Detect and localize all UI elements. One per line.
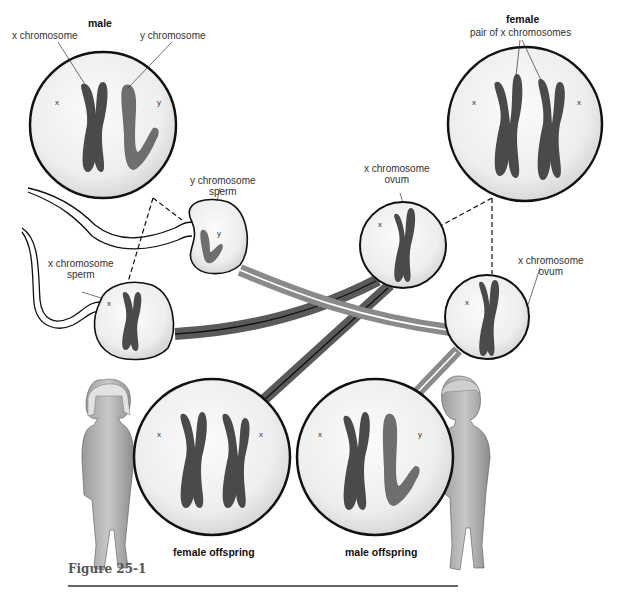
female-offspring-x-left: x bbox=[157, 430, 161, 439]
x-sperm-label-line2: sperm bbox=[48, 269, 114, 280]
x-sperm-label-line1: x chromosome bbox=[48, 258, 114, 269]
male-offspring-x: x bbox=[318, 430, 322, 439]
female-pair-callout: pair of x chromosomes bbox=[470, 27, 571, 38]
male-parent-label: male bbox=[88, 18, 112, 29]
ovum-1-label-line1: x chromosome bbox=[364, 163, 430, 174]
female-x-marker-right: x bbox=[577, 98, 581, 107]
male-y-marker: y bbox=[157, 98, 161, 107]
female-x-marker-left: x bbox=[472, 98, 476, 107]
sex-determination-diagram bbox=[0, 0, 619, 605]
female-offspring-label: female offspring bbox=[173, 547, 255, 558]
female-offspring-x-right: x bbox=[259, 430, 263, 439]
ovum-2-label: x chromosome ovum bbox=[518, 255, 584, 277]
figure-caption: Figure 25-1 bbox=[68, 562, 146, 576]
male-offspring-cell bbox=[297, 379, 453, 535]
ovum-cell-1 bbox=[360, 193, 446, 288]
y-sperm-marker: y bbox=[217, 229, 221, 238]
y-sperm-label-line1: y chromosome bbox=[190, 175, 256, 186]
x-sperm-label: x chromosome sperm bbox=[48, 258, 114, 280]
ovum-1-label-line2: ovum bbox=[364, 174, 430, 185]
male-offspring-label: male offspring bbox=[345, 547, 417, 558]
y-sperm-label: y chromosome sperm bbox=[190, 175, 256, 197]
x-sperm-marker: x bbox=[107, 299, 111, 308]
caption-rule bbox=[68, 585, 458, 587]
ovum-2-label-line2: ovum bbox=[518, 266, 584, 277]
y-sperm-label-line2: sperm bbox=[190, 186, 256, 197]
male-x-marker: x bbox=[55, 98, 59, 107]
female-child-figure bbox=[82, 379, 134, 570]
male-y-chromosome-callout: y chromosome bbox=[140, 30, 206, 41]
ovum-cell-2 bbox=[445, 268, 540, 359]
ovum-2-marker: x bbox=[465, 298, 469, 307]
x-sperm-cell bbox=[82, 282, 173, 359]
female-offspring-cell bbox=[134, 379, 290, 535]
male-parent-cell bbox=[30, 42, 176, 198]
female-parent-label: female bbox=[506, 14, 539, 25]
male-offspring-y: y bbox=[418, 430, 422, 439]
female-parent-cell bbox=[448, 40, 602, 201]
ovum-1-marker: x bbox=[378, 220, 382, 229]
male-x-chromosome-callout: x chromosome bbox=[12, 30, 78, 41]
ovum-2-label-line1: x chromosome bbox=[518, 255, 584, 266]
ovum-1-label: x chromosome ovum bbox=[364, 163, 430, 185]
